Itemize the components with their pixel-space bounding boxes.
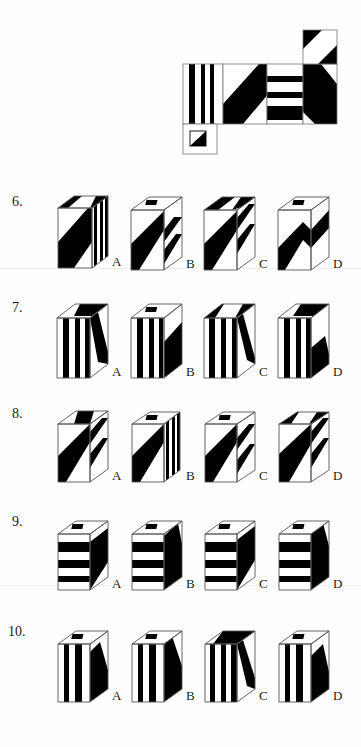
question-number: 7.	[12, 300, 23, 316]
net-panel-small-square	[183, 124, 217, 154]
net-panel-vertical-stripes	[183, 64, 223, 124]
option-letter: B	[186, 364, 195, 380]
option-box-8D[interactable]: D	[273, 398, 351, 506]
option-box-10B[interactable]: B	[126, 616, 204, 724]
question-number: 10.	[8, 624, 26, 640]
question-row-7: 7. A	[0, 292, 361, 400]
option-letter: C	[259, 688, 268, 704]
option-letter: D	[333, 688, 342, 704]
question-number: 6.	[12, 194, 23, 210]
option-letter: B	[186, 688, 195, 704]
option-box-7D[interactable]: D	[273, 292, 351, 400]
net-panel-top-corner	[303, 30, 337, 64]
option-box-6D[interactable]: D	[273, 186, 351, 294]
question-number: 8.	[12, 406, 23, 422]
option-box-9D[interactable]: D	[273, 506, 351, 614]
question-row-9: 9. A	[0, 506, 361, 614]
option-letter: A	[112, 364, 121, 380]
net-diagram	[0, 0, 361, 178]
option-letter: D	[333, 576, 342, 592]
option-letter: B	[186, 468, 195, 484]
option-box-6B[interactable]: B	[126, 186, 204, 294]
option-letter: A	[112, 468, 121, 484]
option-box-6A[interactable]: A	[52, 186, 130, 294]
option-box-7C[interactable]: C	[199, 292, 277, 400]
option-letter: B	[186, 256, 195, 272]
option-letter: D	[333, 468, 342, 484]
option-letter: C	[259, 256, 268, 272]
option-box-6C[interactable]: C	[199, 186, 277, 294]
net-panel-diagonal-corner	[303, 64, 337, 124]
question-row-6: 6.	[0, 186, 361, 294]
option-box-9B[interactable]: B	[126, 506, 204, 614]
option-letter: A	[112, 254, 121, 270]
option-box-8B[interactable]: B	[126, 398, 204, 506]
option-box-8C[interactable]: C	[199, 398, 277, 506]
option-letter: C	[259, 576, 268, 592]
question-row-10: 10. A	[0, 616, 361, 724]
option-box-10C[interactable]: C	[199, 616, 277, 724]
option-letter: B	[186, 576, 195, 592]
option-letter: A	[112, 688, 121, 704]
option-box-10D[interactable]: D	[273, 616, 351, 724]
option-box-9A[interactable]: A	[52, 506, 130, 614]
test-page: 6.	[0, 0, 361, 747]
question-number: 9.	[12, 514, 23, 530]
option-box-10A[interactable]: A	[52, 616, 130, 724]
option-letter: D	[333, 364, 342, 380]
option-box-7A[interactable]: A	[52, 292, 130, 400]
option-box-8A[interactable]: A	[52, 398, 130, 506]
net-panel-horizontal-stripes	[267, 64, 303, 124]
option-letter: C	[259, 468, 268, 484]
option-letter: A	[112, 576, 121, 592]
option-letter: D	[333, 256, 342, 272]
option-letter: C	[259, 364, 268, 380]
option-box-9C[interactable]: C	[199, 506, 277, 614]
option-box-7B[interactable]: B	[126, 292, 204, 400]
question-row-8: 8. A	[0, 398, 361, 506]
